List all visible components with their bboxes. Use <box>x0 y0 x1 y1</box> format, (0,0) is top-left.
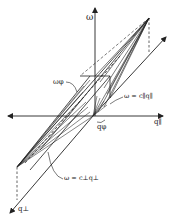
q-perp-axis-label: q⊥ <box>18 206 29 213</box>
dispersion-parallel-label: ω = c∥q∥ <box>124 93 153 100</box>
dispersion-parallel-leader <box>110 97 123 104</box>
dispersion-surface-diagram <box>0 0 173 219</box>
omega-axis-label: ω <box>86 13 93 22</box>
lower-dispersion-cone <box>17 80 93 167</box>
omega-phi-leader <box>66 82 77 92</box>
omega-phi-label: ωφ <box>53 79 64 86</box>
q-phi-label: qφ <box>97 124 106 131</box>
q-perp-axis-lower <box>10 116 93 213</box>
dispersion-perp-label: ω = c⊥q⊥ <box>64 175 99 182</box>
q-parallel-axis-label: q∥ <box>154 119 162 126</box>
